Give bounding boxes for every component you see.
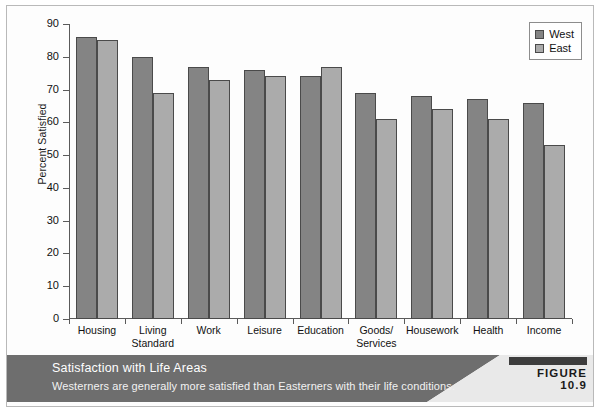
y-axis-line [69,24,70,319]
bar-east-1 [153,93,174,319]
plot-region: 0102030405060708090 [69,24,572,319]
figure-caption-subtitle: Westerners are generally more satisfied … [52,380,455,392]
y-tick-label: 60 [47,115,59,127]
x-category-label: Income [516,324,572,337]
y-tick: 70 [63,90,69,91]
x-category-label: Housing [69,324,125,337]
bar-east-0 [97,40,118,319]
bar-east-8 [544,145,565,319]
y-tick: 10 [63,286,69,287]
x-tick [572,319,573,324]
bar-west-5 [355,93,376,319]
x-axis-category-labels: HousingLivingStandardWorkLeisureEducatio… [69,324,572,358]
bar-west-6 [411,96,432,319]
y-tick-label: 30 [47,214,59,226]
y-tick-label: 0 [53,312,59,324]
bar-east-2 [209,80,230,319]
legend-item-west: West [535,27,574,41]
y-tick: 20 [63,253,69,254]
figure-badge-label: FIGURE 10.9 [509,367,587,391]
chart-legend: West East [529,22,582,60]
x-category-label: Education [293,324,349,337]
legend-swatch-east-icon [535,44,544,53]
y-tick-label: 20 [47,246,59,258]
bar-west-1 [132,57,153,319]
y-axis-title: Percent Satisfied [36,74,48,214]
legend-label-west: West [549,28,574,40]
y-tick: 80 [63,57,69,58]
y-tick: 40 [63,188,69,189]
y-tick-label: 50 [47,148,59,160]
bar-east-3 [265,76,286,319]
bar-east-6 [432,109,453,319]
legend-item-east: East [535,41,574,55]
figure-container: Percent Satisfied 0102030405060708090 Ho… [0,0,602,417]
y-tick: 60 [63,122,69,123]
legend-label-east: East [549,42,571,54]
y-tick-label: 40 [47,181,59,193]
x-category-label: LivingStandard [125,324,181,349]
legend-swatch-west-icon [535,30,544,39]
figure-caption-band: Satisfaction with Life Areas Westerners … [7,355,593,402]
y-tick-label: 70 [47,83,59,95]
y-tick-label: 80 [47,50,59,62]
x-category-label: Goods/Services [348,324,404,349]
bar-west-8 [523,103,544,319]
figure-number-badge: FIGURE 10.9 [509,357,587,391]
bar-east-5 [376,119,397,319]
bar-west-3 [244,70,265,319]
bar-west-4 [300,76,321,319]
bar-west-2 [188,67,209,319]
y-tick: 50 [63,155,69,156]
figure-badge-bar [509,357,587,365]
x-category-label: Housework [404,324,460,337]
x-category-label: Leisure [237,324,293,337]
figure-caption-title: Satisfaction with Life Areas [52,361,207,375]
x-category-label: Work [181,324,237,337]
x-category-label: Health [460,324,516,337]
bar-east-4 [321,67,342,319]
bar-east-7 [488,119,509,319]
y-tick: 30 [63,221,69,222]
chart-area: Percent Satisfied 0102030405060708090 Ho… [12,10,588,350]
bar-west-0 [76,37,97,319]
y-tick-label: 90 [47,17,59,29]
y-tick-label: 10 [47,279,59,291]
y-tick: 90 [63,24,69,25]
bar-west-7 [467,99,488,319]
